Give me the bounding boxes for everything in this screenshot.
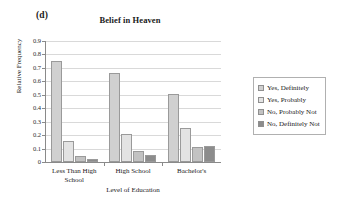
y-tick-label: 0.5 [33, 92, 41, 99]
bar-group [45, 41, 104, 162]
x-category-label-line: Less Than High [45, 167, 104, 176]
x-category-label: High School [104, 167, 163, 176]
y-tick-label: 0.9 [33, 38, 41, 45]
legend-item: No, Definitely Not [258, 118, 320, 130]
y-tick-label: 0.6 [33, 78, 41, 85]
x-category-label-line: Bachelor's [162, 167, 221, 176]
bar [87, 159, 98, 162]
y-tick-label: 0 [38, 159, 41, 166]
bar-group [162, 41, 221, 162]
y-tick-label: 0.8 [33, 51, 41, 58]
chart-title: Belief in Heaven [40, 15, 220, 25]
y-tick-label: 0.7 [33, 65, 41, 72]
x-axis-title: Level of Education [45, 186, 221, 194]
y-tick-label: 0.3 [33, 118, 41, 125]
x-category-label-line: High School [104, 167, 163, 176]
legend-swatch-icon [258, 85, 264, 91]
bar [51, 61, 62, 163]
legend-item: No, Probably Not [258, 106, 320, 118]
bar [133, 151, 144, 162]
bar [121, 134, 132, 162]
legend-swatch-icon [258, 109, 264, 115]
x-axis-line [45, 162, 221, 163]
y-tick-label: 0.4 [33, 105, 41, 112]
plot-area: 0.90.80.70.60.50.40.30.20.10 [45, 41, 221, 163]
figure-panel: (d) Belief in Heaven Relative Frequency … [0, 0, 351, 201]
bar [192, 147, 203, 162]
legend-label: Yes, Probably [267, 97, 306, 104]
x-category-label-line: School [45, 176, 104, 185]
bar [204, 146, 215, 162]
legend-item: Yes, Definitely [258, 82, 320, 94]
y-axis-title: Relative Frequency [15, 11, 23, 121]
bar [180, 128, 191, 162]
legend-swatch-icon [258, 97, 264, 103]
y-tick-label: 0.1 [33, 145, 41, 152]
x-tick-mark [162, 163, 163, 166]
legend-item: Yes, Probably [258, 94, 320, 106]
legend-swatch-icon [258, 121, 264, 127]
legend-label: No, Definitely Not [267, 121, 320, 128]
bar [145, 155, 156, 162]
x-category-label: Less Than HighSchool [45, 167, 104, 185]
legend-label: No, Probably Not [267, 109, 317, 116]
x-tick-mark [104, 163, 105, 166]
bar [109, 73, 120, 162]
bar [63, 141, 74, 162]
y-tick-label: 0.2 [33, 132, 41, 139]
bar-group [104, 41, 163, 162]
legend-label: Yes, Definitely [267, 85, 309, 92]
x-category-label: Bachelor's [162, 167, 221, 176]
bar [75, 156, 86, 162]
legend: Yes, DefinitelyYes, ProbablyNo, Probably… [253, 77, 326, 135]
bar [168, 94, 179, 162]
